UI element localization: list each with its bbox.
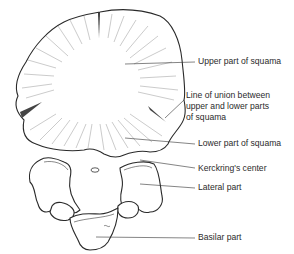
label-basilar-part: Basilar part <box>198 232 241 243</box>
label-line-of-union-1: Line of union between <box>186 90 270 101</box>
label-upper-part-of-squama: Upper part of squama <box>198 56 281 67</box>
right-condyle <box>118 202 139 219</box>
kerckring-center-shape <box>91 168 99 172</box>
label-lower-part-of-squama: Lower part of squama <box>198 138 281 149</box>
squama-outline <box>16 10 185 157</box>
label-lateral-part: Lateral part <box>198 182 241 193</box>
label-line-of-union-2: upper and lower parts <box>186 101 269 112</box>
label-kerckrings-center: Kerckring's center <box>198 163 267 174</box>
basilar-part-shape <box>70 208 118 250</box>
occipital-bone-diagram <box>0 0 294 254</box>
label-line-of-union-3: of squama <box>186 112 226 123</box>
